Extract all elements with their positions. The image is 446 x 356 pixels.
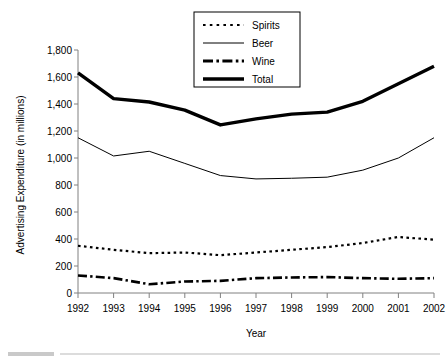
y-tick-200: 200 bbox=[55, 261, 72, 272]
x-tick-1993: 1993 bbox=[102, 303, 125, 314]
chart-figure: Advertising Expenditure (in millions) 1,… bbox=[0, 0, 446, 356]
y-axis-title: Advertising Expenditure (in millions) bbox=[15, 96, 26, 255]
legend-box bbox=[194, 12, 300, 87]
legend-label-beer: Beer bbox=[252, 38, 274, 49]
x-tick-1992: 1992 bbox=[67, 303, 90, 314]
x-tick-2001: 2001 bbox=[387, 303, 410, 314]
x-tick-2000: 2000 bbox=[352, 303, 375, 314]
y-tick-1600: 1,600 bbox=[47, 72, 72, 83]
y-tick-1200: 1,200 bbox=[47, 126, 72, 137]
x-tick-1994: 1994 bbox=[138, 303, 161, 314]
x-tick-1997: 1997 bbox=[245, 303, 268, 314]
x-axis-title: Year bbox=[246, 328, 267, 339]
x-tick-1995: 1995 bbox=[174, 303, 197, 314]
x-axis-tick-labels: 1992 1993 1994 1995 1996 1997 1998 1999 … bbox=[67, 303, 446, 314]
x-tick-2002: 2002 bbox=[423, 303, 446, 314]
chart-legend: Spirits Beer Wine Total bbox=[194, 12, 300, 87]
x-tick-1999: 1999 bbox=[316, 303, 339, 314]
y-tick-400: 400 bbox=[55, 234, 72, 245]
y-tick-1400: 1,400 bbox=[47, 99, 72, 110]
x-tick-1996: 1996 bbox=[209, 303, 232, 314]
legend-label-wine: Wine bbox=[252, 56, 275, 67]
page-caption-strip bbox=[0, 350, 446, 356]
y-tick-600: 600 bbox=[55, 207, 72, 218]
y-tick-800: 800 bbox=[55, 180, 72, 191]
caption-fragment-block bbox=[8, 352, 54, 356]
legend-label-total: Total bbox=[252, 74, 273, 85]
x-tick-1998: 1998 bbox=[280, 303, 303, 314]
y-tick-1000: 1,000 bbox=[47, 153, 72, 164]
y-tick-1800: 1,800 bbox=[47, 45, 72, 56]
caption-fragment-rule bbox=[60, 353, 440, 355]
line-chart-svg: Advertising Expenditure (in millions) 1,… bbox=[0, 0, 446, 356]
y-tick-0: 0 bbox=[66, 288, 72, 299]
legend-label-spirits: Spirits bbox=[252, 20, 280, 31]
